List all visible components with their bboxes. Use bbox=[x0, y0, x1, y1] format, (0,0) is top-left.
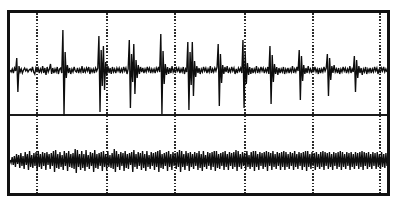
chart-frame bbox=[7, 10, 390, 196]
dual-trace-chart bbox=[10, 13, 387, 193]
figure-page bbox=[0, 0, 397, 206]
